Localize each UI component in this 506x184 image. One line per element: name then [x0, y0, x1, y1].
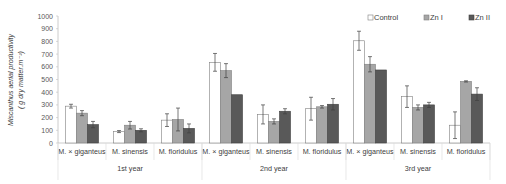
bar-zn-ii [472, 94, 483, 143]
bar-zn-i [221, 71, 232, 143]
x-group-label: 2nd year [260, 164, 289, 173]
bar-zn-i [461, 81, 472, 143]
legend-swatch-control [368, 15, 373, 20]
x-category-label: M. floridulus [303, 147, 342, 156]
y-tick-label: 0 [49, 140, 53, 147]
y-tick-label: 300 [41, 101, 53, 108]
bar-zn-ii [424, 105, 435, 143]
bar-zn-i [365, 64, 376, 143]
y-tick-label: 900 [41, 25, 53, 32]
bar-control [114, 132, 125, 143]
bar-zn-i [77, 113, 88, 143]
legend-swatch-zn-i [424, 15, 429, 20]
bar-zn-ii [136, 130, 147, 143]
x-axis-labels: M. × giganteusM. sinensisM. floridulusM.… [58, 143, 490, 180]
x-category-label: M. sinensis [400, 147, 436, 156]
y-tick-label: 400 [41, 89, 53, 96]
y-axis-label: Miscanthus aerial productivity ( g dry m… [7, 34, 25, 126]
y-tick-label: 600 [41, 63, 53, 70]
x-category-label: M. × giganteus [202, 147, 250, 156]
bar-chart: Miscanthus aerial productivity ( g dry m… [0, 0, 506, 184]
y-axis-title: Miscanthus aerial productivity [7, 34, 15, 126]
bar-zn-i [413, 107, 424, 143]
y-tick-label: 1000 [37, 13, 53, 20]
x-category-label: M. floridulus [159, 147, 198, 156]
bar-zn-i [317, 107, 328, 143]
legend-label: Control [374, 13, 399, 22]
y-axis-unit: ( g dry matter.m⁻²) [17, 51, 25, 109]
x-group-label: 3rd year [405, 164, 432, 173]
x-category-label: M. × giganteus [58, 147, 106, 156]
bar-control [66, 106, 77, 143]
x-group-label: 1st year [117, 164, 143, 173]
x-category-label: M. floridulus [447, 147, 486, 156]
bar-zn-ii [376, 70, 387, 143]
legend-label: Zn I [430, 13, 443, 22]
bar-control [354, 41, 365, 143]
bars [66, 31, 483, 143]
legend-swatch-zn-ii [469, 15, 474, 20]
y-axis-ticks: 01002003004005006007008009001000 [37, 13, 58, 147]
y-tick-label: 500 [41, 76, 53, 83]
bar-zn-ii [280, 111, 291, 143]
x-category-label: M. sinensis [112, 147, 148, 156]
y-tick-label: 800 [41, 38, 53, 45]
y-tick-label: 200 [41, 114, 53, 121]
bar-zn-ii [232, 95, 243, 143]
y-tick-label: 700 [41, 51, 53, 58]
y-tick-label: 100 [41, 127, 53, 134]
bar-zn-i [269, 121, 280, 143]
legend: ControlZn IZn II [368, 13, 490, 22]
x-category-label: M. × giganteus [346, 147, 394, 156]
x-category-label: M. sinensis [256, 147, 292, 156]
legend-label: Zn II [475, 13, 490, 22]
bar-control [210, 62, 221, 143]
